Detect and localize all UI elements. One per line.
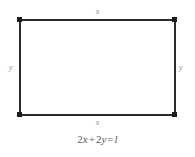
top-side-label: x [0,7,195,16]
bottom-side-label: x [0,118,195,127]
left-side-label: y [9,63,13,72]
equation-equals-operator: = [106,133,114,145]
equation-result: l [115,133,118,145]
equation-plus-operator: + [88,133,96,145]
right-side-label: y [179,63,183,72]
rectangle-right-edge [174,19,176,116]
rectangle-top-edge [19,19,176,21]
rectangle-left-edge [19,19,21,116]
rectangle-perimeter-diagram: x x y y 2x+2y=l [0,0,195,157]
rectangle-bottom-edge [19,114,176,116]
top-right-vertex [172,17,177,22]
bottom-left-vertex [17,112,22,117]
perimeter-equation: 2x+2y=l [0,132,195,146]
bottom-right-vertex [172,112,177,117]
top-left-vertex [17,17,22,22]
